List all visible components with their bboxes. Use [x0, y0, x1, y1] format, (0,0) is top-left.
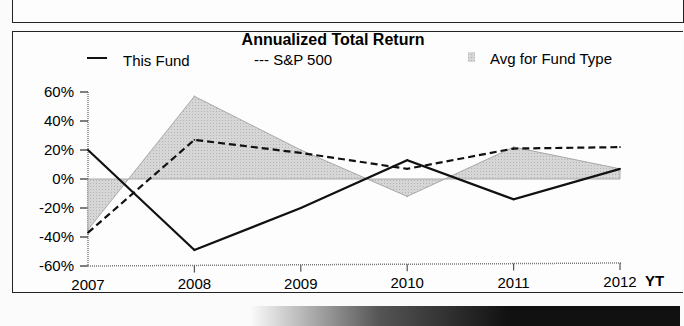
point-avg-fund-type: [300, 149, 302, 151]
legend-this-fund: This Fund: [123, 52, 190, 69]
y-tick-label: 40%: [44, 112, 74, 129]
point-avg-fund-type: [87, 229, 89, 231]
point-avg-fund-type: [406, 196, 408, 198]
point-this-fund: [513, 198, 515, 200]
point-sp500: [513, 148, 515, 150]
y-tick-label: 60%: [44, 83, 74, 100]
point-this-fund: [300, 207, 302, 209]
legend-area-swatch-icon: [468, 52, 475, 62]
point-sp500: [194, 139, 196, 141]
x-tick-label: 2007: [71, 276, 104, 293]
point-sp500: [87, 232, 89, 234]
point-this-fund: [194, 249, 196, 251]
point-sp500: [406, 168, 408, 170]
legend-sp500: --- S&P 500: [254, 51, 332, 68]
x-tick-label: 2012: [603, 273, 636, 290]
x-tick-label: 2008: [178, 275, 211, 292]
y-tick-label: -20%: [39, 199, 74, 216]
point-sp500: [300, 152, 302, 154]
point-avg-fund-type: [194, 96, 196, 98]
x-tick-label: 2010: [391, 274, 424, 291]
x-axis-line: [88, 263, 622, 266]
point-sp500: [619, 146, 621, 148]
legend: This Fund --- S&P 500 Avg for Fund Type: [87, 50, 612, 69]
legend-avg-fund-type: Avg for Fund Type: [490, 50, 612, 67]
x-tick-label: 2011: [497, 274, 529, 291]
x-tick-trailing-ytd: YT: [645, 272, 664, 289]
y-tick-label: 20%: [44, 141, 74, 158]
x-tick-label: 2009: [284, 275, 317, 292]
y-tick-label: -60%: [39, 257, 74, 274]
y-tick-label: 0%: [52, 170, 74, 187]
point-this-fund: [87, 149, 89, 151]
y-tick-label: -40%: [39, 228, 74, 245]
point-this-fund: [406, 159, 408, 161]
chart-title: Annualized Total Return: [242, 31, 425, 48]
point-this-fund: [619, 168, 621, 170]
